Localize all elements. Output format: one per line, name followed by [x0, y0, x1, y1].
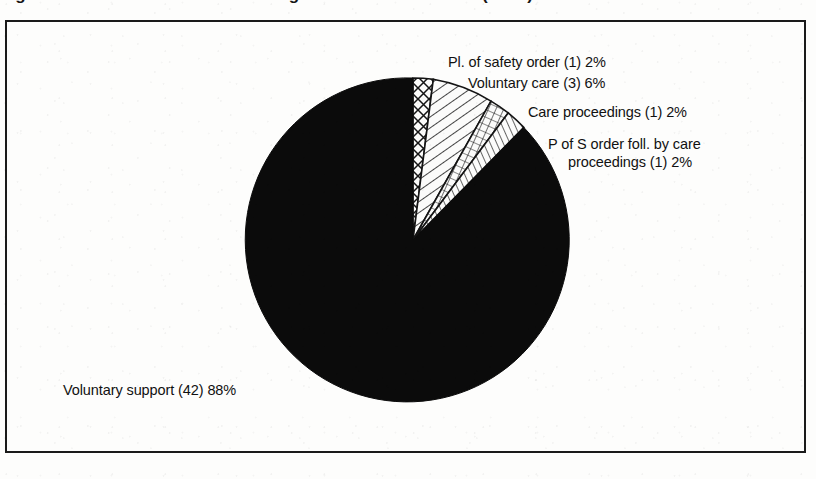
callout-label-pos-order-line1: P of S order foll. by care — [548, 135, 701, 153]
callout-label-pos-order-line2: proceedings (1) 2% — [568, 153, 692, 171]
callout-label-voluntary-support: Voluntary support (42) 88% — [63, 381, 236, 399]
callout-label-place-of-safety-order: Pl. of safety order (1) 2% — [448, 53, 606, 71]
figure-title-text: Figure 5.4 Outcome of cases of alleged c… — [0, 0, 816, 4]
callout-label-voluntary-care: Voluntary care (3) 6% — [468, 74, 605, 92]
scanned-page: Figure 5.4 Outcome of cases of alleged c… — [0, 0, 816, 479]
figure-title-clipped: Figure 5.4 Outcome of cases of alleged c… — [0, 0, 816, 4]
callout-label-care-proceedings: Care proceedings (1) 2% — [528, 103, 687, 121]
